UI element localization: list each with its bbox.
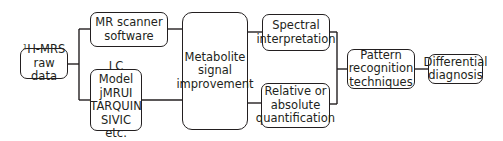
node-differential-diagnosis-label: Differential diagnosis [424, 56, 488, 83]
node-spectral-interpretation-label: Spectral interpretation [256, 19, 335, 46]
node-raw-data-label: H-MRS raw data [27, 42, 65, 83]
node-raw-data: 1H-MRS raw data [20, 48, 68, 79]
node-mr-scanner-software: MR scanner software [90, 12, 168, 47]
node-quantification-label: Relative or absolute quantification [256, 85, 335, 126]
node-analysis-tools-label: LC Model jMRUI TARQUIN SIVIC etc. [90, 60, 141, 141]
node-pattern-recognition-label: Pattern recognition techniques [349, 49, 414, 90]
node-metabolite-signal-improvement-label: Metabolite signal improvement [176, 51, 253, 92]
node-pattern-recognition: Pattern recognition techniques [347, 49, 415, 89]
node-analysis-tools: LC Model jMRUI TARQUIN SIVIC etc. [90, 69, 142, 131]
node-quantification: Relative or absolute quantification [261, 83, 330, 128]
node-differential-diagnosis: Differential diagnosis [428, 54, 483, 84]
node-metabolite-signal-improvement: Metabolite signal improvement [182, 12, 248, 130]
node-mr-scanner-software-label: MR scanner software [95, 16, 162, 43]
node-spectral-interpretation: Spectral interpretation [262, 14, 330, 51]
